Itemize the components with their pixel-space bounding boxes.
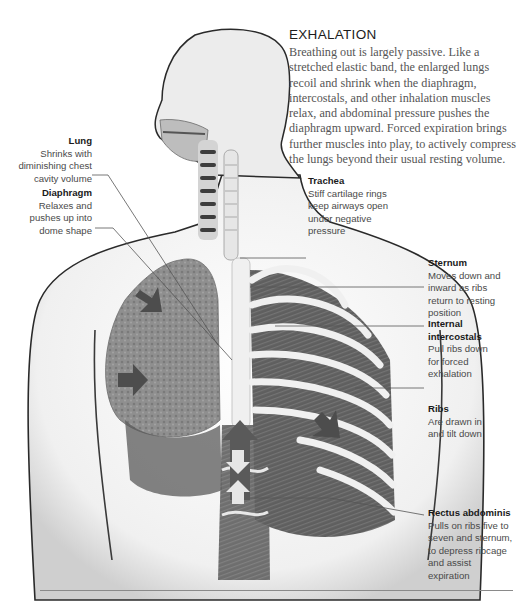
callout-heading: Ribs bbox=[428, 403, 494, 416]
callout-body: Are drawn in and tilt down bbox=[428, 416, 494, 441]
callout-sternum: Sternum Moves down and inward as ribs re… bbox=[428, 257, 508, 320]
trachea bbox=[224, 150, 238, 260]
callout-heading: Lung bbox=[8, 135, 92, 148]
callout-internal-intercostals: Internal intercostals Pull ribs down for… bbox=[428, 318, 498, 381]
callout-body: Pull ribs down for forced exhalation bbox=[428, 343, 498, 381]
callout-heading: Rectus abdominis bbox=[428, 507, 514, 520]
callout-diaphragm: Diaphragm Relaxes and pushes up into dom… bbox=[14, 187, 92, 237]
callout-heading: Diaphragm bbox=[14, 187, 92, 200]
callout-heading: Trachea bbox=[308, 175, 404, 188]
callout-body: Relaxes and pushes up into dome shape bbox=[14, 200, 92, 238]
callout-body: Shrinks with diminishing chest cavity vo… bbox=[8, 148, 92, 186]
page-title: EXHALATION bbox=[289, 27, 377, 42]
callout-heading: Internal intercostals bbox=[428, 318, 498, 343]
callout-ribs: Ribs Are drawn in and tilt down bbox=[428, 403, 494, 441]
sternum bbox=[232, 258, 250, 428]
callout-body: Pulls on ribs five to seven and sternum,… bbox=[428, 520, 514, 583]
callout-lung: Lung Shrinks with diminishing chest cavi… bbox=[8, 135, 92, 185]
callout-body: Moves down and inward as ribs return to … bbox=[428, 270, 508, 320]
callout-rectus-abdominis: Rectus abdominis Pulls on ribs five to s… bbox=[428, 507, 514, 583]
spine bbox=[198, 140, 218, 240]
callout-heading: Sternum bbox=[428, 257, 508, 270]
bottom-divider bbox=[40, 590, 513, 591]
intro-paragraph: Breathing out is largely passive. Like a… bbox=[289, 45, 517, 167]
callout-trachea: Trachea Stiff cartilage rings keep airwa… bbox=[308, 175, 404, 238]
callout-body: Stiff cartilage rings keep airways open … bbox=[308, 188, 404, 238]
